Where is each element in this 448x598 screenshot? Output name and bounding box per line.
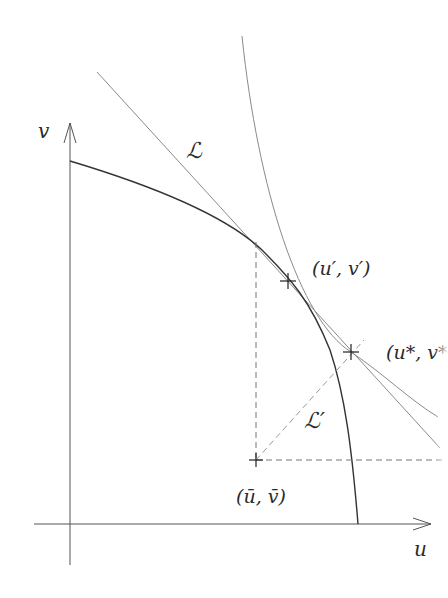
line-L: [97, 72, 440, 448]
point-star-marker: [343, 344, 359, 360]
y-axis-label: v: [38, 119, 50, 143]
line-L-label: ℒ: [186, 138, 203, 163]
pareto-frontier: [70, 161, 358, 524]
bargaining-diagram: v u ℒ ℒ′ (u′, v′) (u*, v* (ū, v̄): [0, 0, 448, 598]
point-bar-marker: [249, 453, 263, 467]
line-L-prime: [256, 340, 364, 460]
x-axis-label: u: [414, 537, 427, 561]
point-prime-label: (u′, v′): [312, 257, 371, 279]
axes: [34, 123, 431, 565]
line-L-prime-label: ℒ′: [304, 408, 325, 433]
point-bar-label: (ū, v̄): [236, 485, 286, 507]
right-edge-fade: [434, 0, 448, 598]
